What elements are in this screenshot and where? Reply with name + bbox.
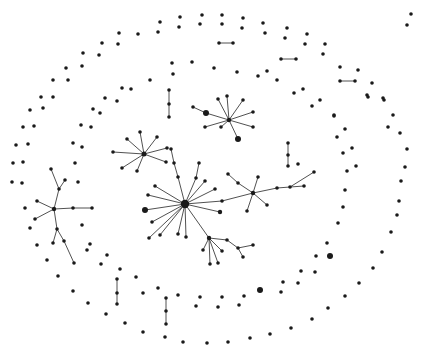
graph-edge xyxy=(222,193,253,201)
graph-node xyxy=(136,32,140,36)
graph-edge xyxy=(171,149,174,163)
graph-node xyxy=(33,217,37,221)
graph-edge xyxy=(54,209,57,229)
graph-node xyxy=(242,294,246,298)
graph-node xyxy=(382,98,386,102)
graph-node xyxy=(312,170,316,174)
graph-node xyxy=(181,200,189,208)
graph-node xyxy=(251,191,255,195)
graph-edge xyxy=(54,208,73,209)
graph-node xyxy=(216,97,220,101)
graph-node xyxy=(405,23,409,27)
graph-node xyxy=(343,294,347,298)
graph-node xyxy=(198,22,202,26)
graph-node xyxy=(28,108,32,112)
graph-edge xyxy=(238,183,253,193)
graph-node xyxy=(261,21,265,25)
graph-node xyxy=(20,181,24,185)
graph-node xyxy=(220,199,224,203)
graph-node xyxy=(105,253,109,257)
graph-node xyxy=(66,78,70,82)
graph-node xyxy=(155,135,159,139)
graph-node xyxy=(357,281,361,285)
graph-node xyxy=(343,188,347,192)
graph-node xyxy=(100,41,104,45)
graph-node xyxy=(45,258,49,262)
graph-node xyxy=(403,165,407,169)
graph-node xyxy=(236,246,240,250)
graph-edge xyxy=(229,120,238,139)
graph-edge xyxy=(155,186,185,204)
graph-edge xyxy=(185,181,205,204)
graph-node xyxy=(281,280,285,284)
graph-edge xyxy=(253,177,258,193)
graph-node xyxy=(158,20,162,24)
graph-node xyxy=(399,179,403,183)
graph-node xyxy=(303,42,307,46)
graph-node xyxy=(207,236,211,240)
graph-node xyxy=(321,52,325,56)
graph-node xyxy=(302,184,306,188)
graph-node xyxy=(21,125,25,129)
graph-node xyxy=(235,70,239,74)
graph-node xyxy=(325,241,329,245)
graph-node xyxy=(371,266,375,270)
graph-node xyxy=(171,72,175,76)
graph-node xyxy=(90,206,94,210)
graph-node xyxy=(398,131,402,135)
graph-node xyxy=(256,175,260,179)
graph-edge xyxy=(227,240,238,248)
graph-node xyxy=(299,269,303,273)
graph-edge xyxy=(185,204,186,237)
graph-node xyxy=(341,205,345,209)
graph-edge xyxy=(54,189,59,209)
graph-node xyxy=(313,270,317,274)
graph-node xyxy=(231,41,235,45)
graph-node xyxy=(116,42,120,46)
graph-node xyxy=(213,187,217,191)
graph-node xyxy=(191,105,195,109)
graph-node xyxy=(63,178,67,182)
graph-node xyxy=(251,243,255,247)
graph-edge xyxy=(277,187,290,188)
graph-node xyxy=(283,36,287,40)
graph-node xyxy=(51,95,55,99)
graph-node xyxy=(217,41,221,45)
graph-node xyxy=(76,180,80,184)
graph-node xyxy=(310,317,314,321)
graph-node xyxy=(14,143,18,147)
graph-node xyxy=(265,69,269,73)
graph-node xyxy=(163,335,167,339)
graph-node xyxy=(62,239,66,243)
graph-node xyxy=(256,74,260,78)
graph-node xyxy=(391,113,395,117)
graph-node xyxy=(71,289,75,293)
graph-node xyxy=(10,180,14,184)
graph-node xyxy=(353,79,357,83)
graph-edge xyxy=(35,209,54,219)
graph-node xyxy=(201,248,205,252)
graph-edge xyxy=(174,163,178,177)
graph-node xyxy=(292,91,296,95)
graph-node xyxy=(225,94,229,98)
graph-node xyxy=(194,176,198,180)
graph-edge xyxy=(196,163,199,178)
graph-node xyxy=(203,179,207,183)
network-graph xyxy=(0,0,421,355)
graph-node xyxy=(251,110,255,114)
graph-node xyxy=(245,209,249,213)
graph-node xyxy=(99,262,103,266)
graph-node xyxy=(389,230,393,234)
graph-node xyxy=(178,15,182,19)
graph-node xyxy=(52,207,56,211)
graph-node xyxy=(203,110,209,116)
graph-node xyxy=(86,301,90,305)
graph-node xyxy=(289,326,293,330)
graph-node xyxy=(225,238,229,242)
graph-node xyxy=(97,53,101,57)
graph-node xyxy=(71,206,75,210)
graph-node xyxy=(125,137,129,141)
graph-node xyxy=(117,31,121,35)
graph-node xyxy=(203,125,207,129)
graph-node xyxy=(194,304,198,308)
